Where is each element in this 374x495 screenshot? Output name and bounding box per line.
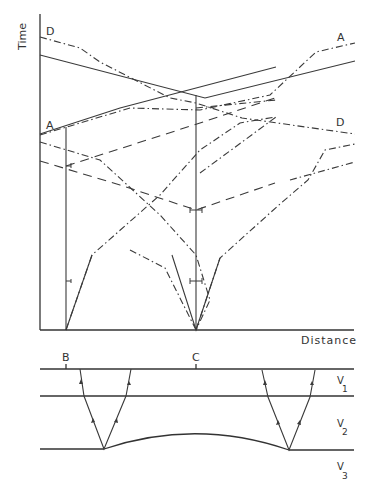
v3-subscript: 3 xyxy=(342,471,348,481)
dashdot-traveltime-curves xyxy=(40,37,355,330)
ray-path-left xyxy=(80,369,131,449)
plot-axes xyxy=(40,14,354,330)
shotpoint-verticals xyxy=(66,95,220,330)
label-a-right: A xyxy=(337,31,345,44)
label-d-left: D xyxy=(46,25,54,38)
x-axis-label: Distance xyxy=(301,334,357,347)
dashed-traveltime-lines xyxy=(40,98,275,210)
v2-subscript: 2 xyxy=(342,427,348,437)
v1-subscript: 1 xyxy=(342,384,348,394)
interface-2-refractor xyxy=(40,434,354,450)
ray-path-right xyxy=(262,370,315,450)
ray-arrows xyxy=(79,379,314,425)
label-d-right: D xyxy=(336,116,344,129)
layer-velocity-labels: V 1 V 2 V 3 xyxy=(337,375,348,481)
cross-section xyxy=(40,364,354,450)
delay-time-markers xyxy=(66,163,202,284)
y-axis-label: Time xyxy=(16,23,29,51)
station-b-label: B xyxy=(62,351,70,364)
solid-traveltime-lines xyxy=(40,55,355,134)
station-c-label: C xyxy=(192,351,200,364)
seismic-refraction-diagram: Time Distance D A A D xyxy=(0,0,374,495)
